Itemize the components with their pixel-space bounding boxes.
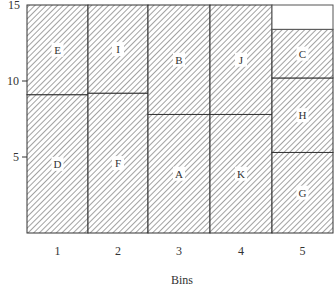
item-label: G (299, 187, 307, 199)
x-tick-label: 2 (115, 244, 121, 258)
empty-capacity (272, 5, 333, 29)
item-label: F (115, 157, 121, 169)
y-axis: 51015 (7, 0, 27, 164)
x-axis-title: Bins (171, 273, 193, 287)
item-label: H (299, 109, 307, 121)
item-label: I (116, 43, 120, 55)
y-tick-label: 15 (8, 0, 20, 12)
item-label: E (54, 44, 61, 56)
bin-packing-chart: DEFIABKJGHC 51015 12345 Bins (0, 0, 334, 289)
bin-5: GHC (272, 5, 333, 233)
y-tick-label: 5 (13, 150, 19, 164)
bin-3: AB (148, 5, 210, 233)
bin-2: FI (88, 5, 148, 233)
bin-4: KJ (210, 5, 272, 233)
y-tick-label: 10 (7, 74, 19, 88)
item-label: B (175, 54, 182, 66)
item-label: D (54, 158, 62, 170)
item-label: J (239, 54, 244, 66)
x-tick-label: 5 (300, 244, 306, 258)
plot-area: DEFIABKJGHC (27, 5, 333, 233)
item-label: K (237, 168, 245, 180)
x-axis: 12345 (55, 244, 306, 258)
item-label: A (175, 168, 183, 180)
bin-1: DE (27, 5, 88, 233)
x-tick-label: 1 (55, 244, 61, 258)
x-tick-label: 4 (238, 244, 244, 258)
x-tick-label: 3 (176, 244, 182, 258)
item-label: C (299, 48, 306, 60)
